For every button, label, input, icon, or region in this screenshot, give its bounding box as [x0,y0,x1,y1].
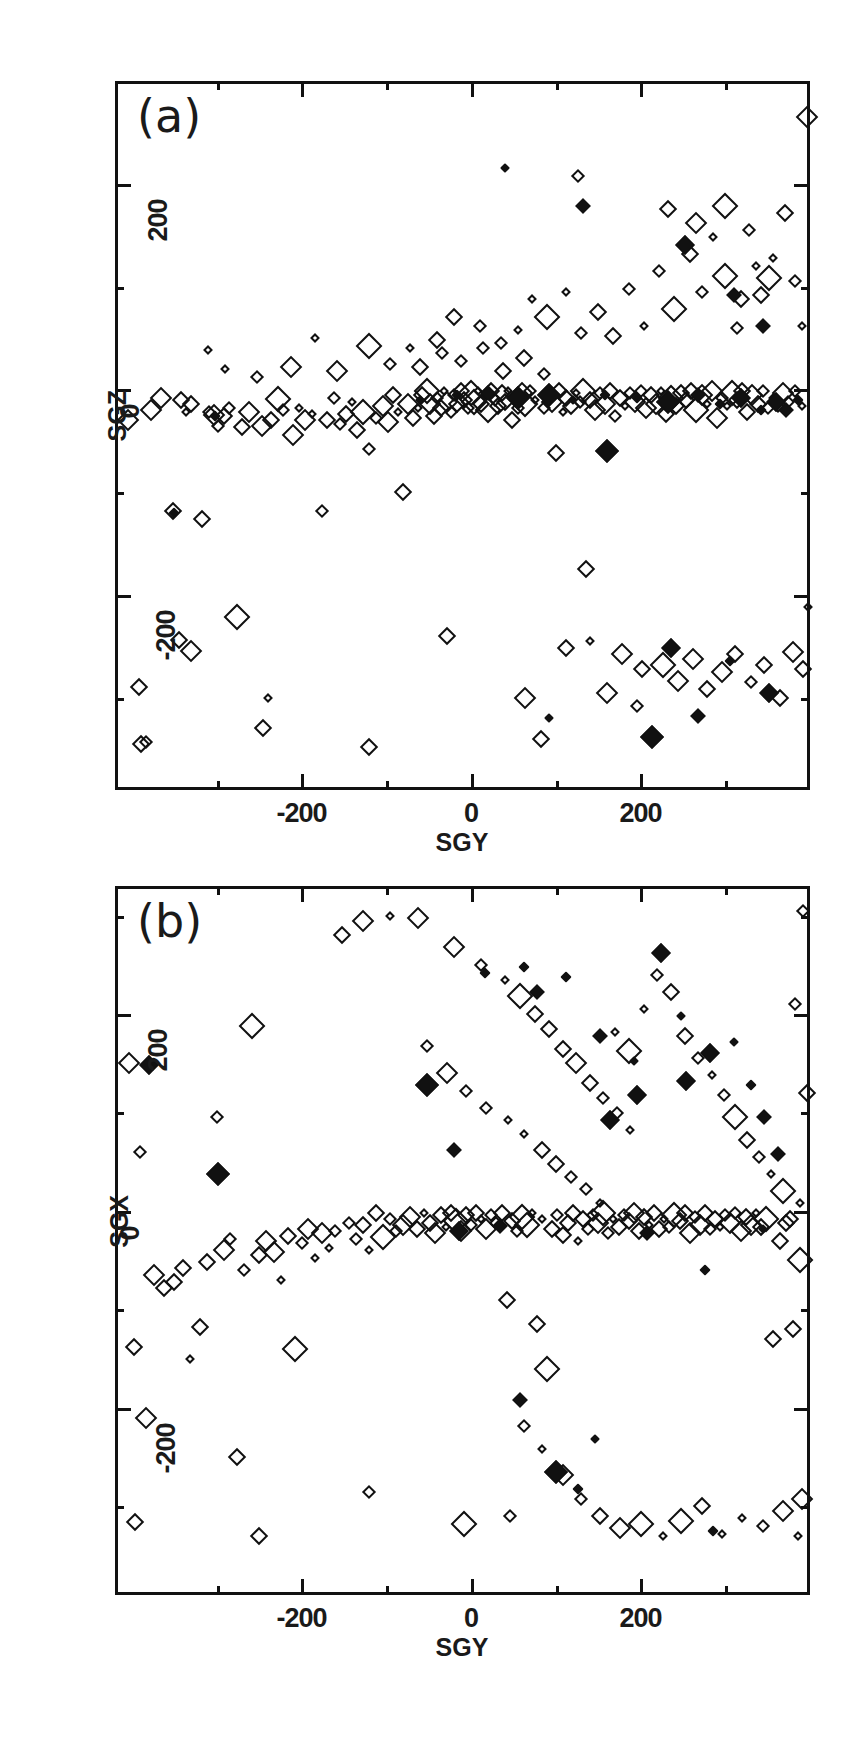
panel-b-sgx-vs-sgy: (b) [115,886,810,1595]
panel-a-letter: (a) [137,89,201,143]
axis-tick [471,1579,474,1595]
axis-tick [115,916,124,919]
axis-tick [115,595,131,598]
axis-tick [725,781,728,790]
axis-tick [556,1586,559,1595]
y-tick-label: 200 [143,199,174,241]
panel-b-yaxis-title: SGX [105,1195,134,1248]
axis-tick [217,1586,220,1595]
axis-tick [801,1112,810,1115]
axis-tick [217,781,220,790]
axis-tick [301,886,304,902]
axis-tick [471,886,474,902]
axis-tick [386,781,389,790]
axis-tick [640,886,643,902]
axis-tick [801,1309,810,1312]
axis-tick [725,81,728,90]
axis-tick [640,1579,643,1595]
y-tick-label: 200 [143,1030,174,1072]
axis-tick [725,1586,728,1595]
axis-tick [115,1408,131,1411]
x-tick-label: 200 [619,798,661,829]
x-tick-label: 0 [464,1603,478,1634]
axis-tick [801,698,810,701]
axis-tick [115,492,124,495]
x-tick-label: -200 [276,1603,326,1634]
axis-tick [801,1506,810,1509]
axis-tick [386,1586,389,1595]
axis-tick [115,184,131,187]
panel-a-xaxis-title: SGY [436,828,489,857]
axis-tick [386,886,389,895]
axis-tick [115,1309,124,1312]
axis-tick [471,81,474,97]
x-tick-label: 0 [464,798,478,829]
y-tick-label: -200 [151,1423,182,1473]
panel-b-letter: (b) [137,894,202,948]
axis-tick [801,287,810,290]
x-tick-label: -200 [276,798,326,829]
figure-scatter-pair: (a) -20002002000-200 SGY SGZ (b) -200020… [0,0,846,1737]
axis-tick [386,81,389,90]
axis-tick [794,595,810,598]
axis-tick [115,1014,131,1017]
axis-tick [471,774,474,790]
panel-b-xaxis-title: SGY [436,1633,489,1662]
axis-tick [794,1014,810,1017]
axis-tick [801,916,810,919]
axis-tick [115,287,124,290]
axis-tick [556,781,559,790]
axis-tick [301,774,304,790]
axis-tick [217,81,220,90]
axis-tick [801,492,810,495]
axis-tick [556,81,559,90]
axis-tick [301,1579,304,1595]
axis-tick [115,698,124,701]
axis-tick [794,389,810,392]
axis-tick [640,81,643,97]
axis-tick [301,81,304,97]
panel-a-sgz-vs-sgy: (a) [115,81,810,790]
x-tick-label: 200 [619,1603,661,1634]
axis-tick [640,774,643,790]
axis-tick [794,1211,810,1214]
axis-tick [115,1506,124,1509]
axis-tick [794,1408,810,1411]
panel-a-yaxis-title: SGZ [103,390,132,441]
axis-tick [217,886,220,895]
axis-tick [115,1112,124,1115]
y-tick-label: -200 [151,610,182,660]
axis-tick [725,886,728,895]
axis-tick [794,184,810,187]
axis-tick [556,886,559,895]
